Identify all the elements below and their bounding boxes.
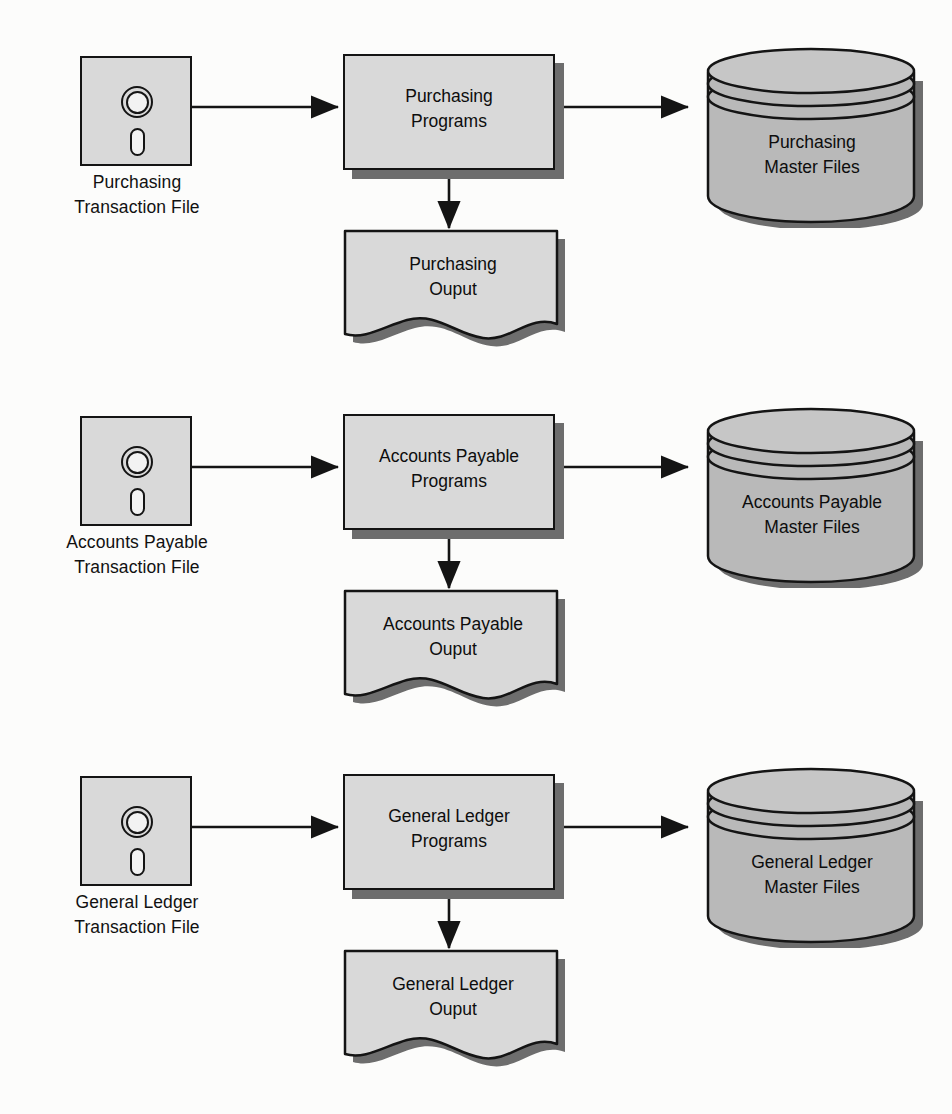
master-file-shape[interactable]: Accounts Payable Master Files: [694, 402, 934, 588]
floppy-slot-icon: [130, 488, 145, 516]
cylinder-top-ellipse: [708, 49, 914, 93]
process-shape[interactable]: Accounts Payable Programs: [343, 414, 569, 542]
database-cylinder-icon: [694, 42, 934, 228]
document-icon: [341, 944, 573, 1074]
floppy-hub-inner-ring: [126, 811, 149, 834]
transaction-file-label: General Ledger Transaction File: [28, 890, 246, 940]
process-row-accounts-payable: Accounts Payable Transaction File Accoun…: [0, 402, 952, 742]
process-body: [343, 414, 555, 530]
process-row-general-ledger: General Ledger Transaction File General …: [0, 762, 952, 1102]
document-body: [345, 951, 557, 1058]
process-body: [343, 774, 555, 890]
floppy-hub-inner-ring: [126, 451, 149, 474]
output-document-shape[interactable]: Purchasing Ouput: [341, 224, 573, 354]
floppy-hub-inner-ring: [126, 91, 149, 114]
floppy-disk-icon: [80, 56, 192, 166]
output-document-shape[interactable]: General Ledger Ouput: [341, 944, 573, 1074]
database-cylinder-icon: [694, 762, 934, 948]
floppy-slot-icon: [130, 848, 145, 876]
master-file-shape[interactable]: Purchasing Master Files: [694, 42, 934, 228]
document-body: [345, 591, 557, 698]
floppy-slot-icon: [130, 128, 145, 156]
transaction-file-shape[interactable]: [80, 56, 204, 178]
output-document-shape[interactable]: Accounts Payable Ouput: [341, 584, 573, 714]
cylinder-top-ellipse: [708, 769, 914, 813]
transaction-file-label: Accounts Payable Transaction File: [28, 530, 246, 580]
document-icon: [341, 584, 573, 714]
master-file-shape[interactable]: General Ledger Master Files: [694, 762, 934, 948]
process-row-purchasing: Purchasing Transaction File Purchasing P…: [0, 42, 952, 382]
cylinder-top-ellipse: [708, 409, 914, 453]
transaction-file-shape[interactable]: [80, 776, 204, 898]
floppy-disk-icon: [80, 776, 192, 886]
process-shape[interactable]: General Ledger Programs: [343, 774, 569, 902]
document-icon: [341, 224, 573, 354]
flowchart-diagram: Purchasing Transaction File Purchasing P…: [0, 0, 952, 1114]
floppy-disk-icon: [80, 416, 192, 526]
document-body: [345, 231, 557, 338]
process-shape[interactable]: Purchasing Programs: [343, 54, 569, 182]
database-cylinder-icon: [694, 402, 934, 588]
transaction-file-shape[interactable]: [80, 416, 204, 538]
process-body: [343, 54, 555, 170]
transaction-file-label: Purchasing Transaction File: [28, 170, 246, 220]
